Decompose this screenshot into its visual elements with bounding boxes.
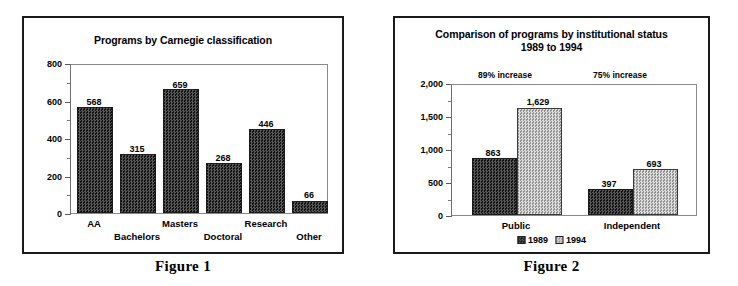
bar-other (292, 201, 328, 213)
figure-1-ytick-label-200: 200 (26, 172, 62, 182)
bar-public-1994 (517, 108, 562, 216)
figure-2-ytick-2000 (446, 84, 451, 85)
xlabel-research: Research (245, 218, 288, 229)
xlabel-doctoral: Doctoral (204, 231, 243, 242)
figure-2-ytick-minor-1250 (448, 134, 451, 135)
bar-value-research: 446 (258, 119, 273, 129)
xlabel-other: Other (296, 231, 321, 242)
figure-1-plot-area (70, 64, 328, 214)
annotation-public-increase: 89% increase (478, 70, 532, 80)
bar-value-independent-1994: 693 (646, 159, 661, 169)
figure-2-ytick-label-2000: 2,000 (399, 79, 443, 89)
bar-doctoral (206, 163, 242, 213)
figure-2-title-line-2: 1989 to 1994 (395, 41, 708, 54)
figure-1-ytick-200 (65, 177, 70, 178)
figure-2-ytick-label-0: 0 (399, 211, 443, 221)
bar-independent-1994 (633, 169, 678, 215)
bar-value-masters: 659 (172, 80, 187, 90)
figure-1-ytick-0 (65, 214, 70, 215)
figure-2-ytick-label-500: 500 (399, 178, 443, 188)
figure-1-ytick-600 (65, 102, 70, 103)
bar-bachelors (120, 154, 156, 213)
figure-1-frame: Programs by Carnegie classification 0 20… (22, 16, 344, 254)
bar-public-1989 (472, 158, 517, 215)
legend-swatch-1989-icon (517, 236, 525, 244)
xlabel-public: Public (502, 220, 531, 231)
xlabel-masters: Masters (162, 218, 198, 229)
bar-value-public-1994: 1,629 (527, 97, 550, 107)
xlabel-independent: Independent (604, 220, 660, 231)
figure-1-caption: Figure 1 (22, 258, 344, 275)
figure-2-ytick-minor-750 (448, 167, 451, 168)
bar-value-doctoral: 268 (215, 153, 230, 163)
figure-1-ytick-label-600: 600 (26, 97, 62, 107)
bar-value-aa: 568 (86, 97, 101, 107)
figure-1-ytick-label-800: 800 (26, 59, 62, 69)
bar-value-other: 66 (304, 190, 314, 200)
xlabel-bachelors: Bachelors (114, 231, 160, 242)
figure-1-ytick-minor-500 (67, 120, 70, 121)
figure-1-chart-title: Programs by Carnegie classification (24, 34, 342, 47)
figure-2-ytick-minor-1750 (448, 101, 451, 102)
bar-value-independent-1989: 397 (601, 179, 616, 189)
legend-swatch-1994-icon (555, 236, 563, 244)
figure-1-ytick-label-400: 400 (26, 134, 62, 144)
legend-label-1994: 1994 (566, 235, 586, 245)
figure-1-ytick-800 (65, 64, 70, 65)
figure-2-ytick-minor-250 (448, 200, 451, 201)
bar-research (249, 129, 285, 213)
figure-2-ytick-1500 (446, 117, 451, 118)
figure-2-ytick-label-1000: 1,000 (399, 145, 443, 155)
figure-2-legend: 1989 1994 (517, 235, 586, 245)
xlabel-aa: AA (87, 218, 101, 229)
figure-1-ytick-minor-100 (67, 195, 70, 196)
figure-2-caption: Figure 2 (393, 258, 710, 275)
figure-1-ytick-400 (65, 139, 70, 140)
figure-2-ytick-0 (446, 216, 451, 217)
bar-masters (163, 89, 199, 213)
bar-aa (77, 107, 113, 214)
legend-item-1994: 1994 (555, 235, 586, 245)
figure-2-ytick-500 (446, 183, 451, 184)
figure-2-frame: Comparison of programs by institutional … (393, 16, 710, 254)
figure-2-ytick-1000 (446, 150, 451, 151)
annotation-independent-increase: 75% increase (593, 70, 647, 80)
figure-2-ytick-label-1500: 1,500 (399, 112, 443, 122)
figure-1-ytick-minor-300 (67, 158, 70, 159)
legend-item-1989: 1989 (517, 235, 548, 245)
legend-label-1989: 1989 (528, 235, 548, 245)
bar-value-bachelors: 315 (129, 144, 144, 154)
figure-2-chart-title: Comparison of programs by institutional … (395, 28, 708, 53)
figure-2-title-line-1: Comparison of programs by institutional … (435, 28, 667, 40)
figure-2-y-axis-line (451, 84, 452, 217)
bar-value-public-1989: 863 (485, 148, 500, 158)
figure-1-ytick-minor-700 (67, 83, 70, 84)
figure-1-y-axis-line (70, 64, 71, 215)
bar-independent-1989 (588, 189, 633, 215)
figure-1-ytick-label-0: 0 (26, 209, 62, 219)
figures-page: Programs by Carnegie classification 0 20… (0, 0, 738, 286)
